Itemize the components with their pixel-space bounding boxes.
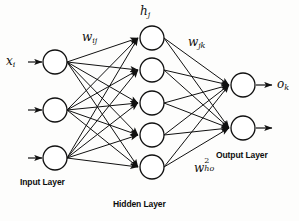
hidden-layer-caption: Hidden Layer [113, 200, 166, 209]
output-arrows [256, 85, 272, 128]
weight-ho-subscript: ho [204, 165, 214, 173]
hidden-activation-base: h [140, 4, 148, 18]
edges-input-to-hidden [67, 38, 138, 167]
hidden-activation-subscript: j [148, 10, 150, 19]
weight-ho-indices: 2ho [204, 160, 214, 172]
weight-jk-base: w [188, 35, 198, 49]
network-graph-svg [0, 0, 299, 221]
input-node [43, 50, 67, 74]
output-layer-caption: Output Layer [216, 151, 268, 160]
hidden-node [140, 58, 164, 82]
input-layer-caption: Input Layer [20, 178, 65, 187]
weight-ho-squared-label: w2ho [194, 160, 214, 174]
input-arrows [28, 62, 42, 158]
weight-jk-subscript: jk [198, 41, 205, 50]
hidden-node [140, 26, 164, 50]
weight-hidden-output-label: wjk [188, 36, 205, 50]
output-node [231, 116, 255, 140]
hidden-node [140, 123, 164, 147]
output-signal-label: ok [277, 78, 289, 92]
edges-hidden-to-output [164, 38, 229, 167]
hidden-node [140, 91, 164, 115]
neural-network-diagram: xi wij hj wjk w2ho ok Input Layer Hidden… [0, 0, 299, 221]
input-signal-base: x [6, 54, 13, 68]
output-node [231, 73, 255, 97]
output-signal-subscript: k [284, 83, 289, 92]
hidden-node [140, 155, 164, 179]
input-node [43, 146, 67, 170]
weight-ij-base: w [82, 30, 92, 44]
hidden-activation-label: hj [140, 5, 150, 19]
input-signal-subscript: i [13, 60, 15, 69]
input-node [43, 98, 67, 122]
hidden-layer-nodes [140, 26, 164, 179]
weight-ij-subscript: ij [92, 36, 97, 45]
weight-ho-base: w [194, 161, 204, 175]
input-signal-label: xi [6, 55, 15, 69]
output-layer-nodes [231, 73, 255, 140]
weight-input-hidden-label: wij [82, 31, 97, 45]
input-layer-nodes [43, 50, 67, 170]
